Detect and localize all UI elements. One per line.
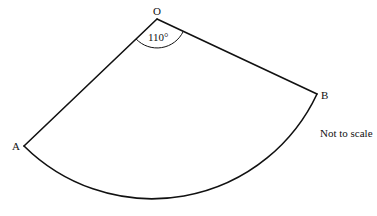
point-label-o: O xyxy=(153,5,161,17)
radius-ob xyxy=(157,19,317,94)
angle-label: 110° xyxy=(148,31,169,43)
point-label-a: A xyxy=(12,140,20,152)
sector-arc xyxy=(24,94,317,199)
not-to-scale-note: Not to scale xyxy=(320,127,373,139)
sector-diagram: O A B 110° Not to scale xyxy=(0,0,377,216)
radius-oa xyxy=(24,19,157,146)
point-label-b: B xyxy=(321,89,328,101)
